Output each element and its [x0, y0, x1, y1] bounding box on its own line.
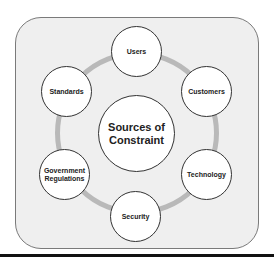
node-users: Users — [111, 26, 162, 77]
center-label-line2: Constraint — [108, 134, 165, 147]
node-security: Security — [110, 191, 161, 242]
bottom-divider — [0, 254, 274, 257]
node-label-line1: Government — [44, 167, 85, 175]
node-government-regulations: Government Regulations — [39, 149, 90, 200]
node-technology: Technology — [181, 149, 232, 200]
center-label-line1: Sources of — [108, 121, 165, 134]
node-label: Users — [127, 48, 146, 56]
node-label-line2: Regulations — [44, 175, 85, 183]
node-label: Customers — [188, 88, 225, 96]
node-customers: Customers — [181, 66, 232, 117]
center-node-sources-of-constraint: Sources of Constraint — [98, 95, 175, 172]
node-label: Standards — [49, 88, 83, 96]
node-label: Security — [122, 213, 150, 221]
node-standards: Standards — [41, 66, 92, 117]
node-label: Technology — [187, 171, 226, 179]
